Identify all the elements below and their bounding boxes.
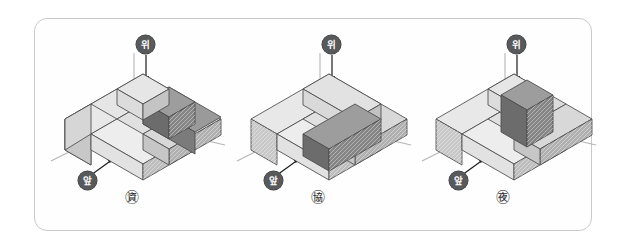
front-direction-badge: 앞 bbox=[449, 171, 468, 190]
figure-label-da: ㊰ bbox=[490, 187, 516, 207]
figure-label-na: ㊯ bbox=[305, 187, 331, 207]
top-direction-badge: 위 bbox=[322, 35, 341, 54]
blocks-na bbox=[251, 74, 407, 180]
blocks-da bbox=[436, 74, 592, 180]
front-direction-badge: 앞 bbox=[78, 171, 97, 190]
figure-panel-da: 위 앞 ㊰ bbox=[410, 19, 600, 232]
figure-label-ga: ㊮ bbox=[119, 187, 145, 207]
top-direction-badge: 위 bbox=[136, 35, 155, 54]
figure-panel-na: 위 앞 ㊯ bbox=[225, 19, 415, 232]
top-direction-badge: 위 bbox=[507, 35, 526, 54]
front-direction-badge: 앞 bbox=[264, 171, 283, 190]
blocks-ga bbox=[65, 74, 221, 180]
diagram-frame: 위 앞 ㊮ bbox=[34, 18, 592, 231]
diagram-root: 위 앞 ㊮ bbox=[0, 0, 622, 249]
figure-panel-ga: 위 앞 ㊮ bbox=[39, 19, 229, 232]
